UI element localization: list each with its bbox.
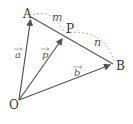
vector-a bbox=[19, 20, 31, 100]
point-label-a: A bbox=[22, 7, 32, 21]
svg-text:b: b bbox=[74, 67, 80, 78]
vector-label-p: p bbox=[41, 48, 49, 61]
vector-diagram: A P B O m n a p b bbox=[0, 0, 133, 124]
arc-n bbox=[66, 32, 114, 61]
svg-text:a: a bbox=[15, 49, 21, 60]
ratio-label-m: m bbox=[52, 11, 62, 24]
svg-text:p: p bbox=[42, 49, 49, 60]
ratio-label-n: n bbox=[94, 36, 101, 49]
vector-b bbox=[19, 65, 110, 100]
vector-p bbox=[19, 39, 62, 100]
vector-label-a: a bbox=[14, 48, 22, 61]
point-label-o: O bbox=[9, 98, 19, 112]
point-label-b: B bbox=[116, 59, 125, 73]
point-label-p: P bbox=[66, 22, 74, 36]
